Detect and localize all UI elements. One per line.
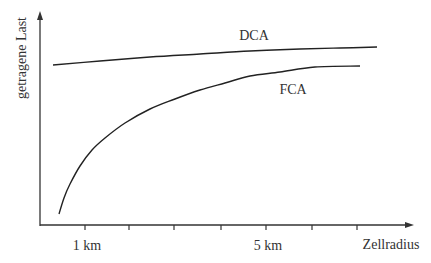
- tick-label-5km: 5 km: [254, 238, 283, 253]
- dca-curve: [53, 47, 377, 65]
- x-axis-label: Zellradius: [363, 237, 420, 252]
- x-axis-arrow-icon: [405, 222, 414, 228]
- x-ticks: [85, 225, 357, 230]
- load-vs-cell-radius-diagram: getragene Last Zellradius 1 km 5 km DCA …: [0, 0, 431, 263]
- tick-label-1km: 1 km: [73, 238, 102, 253]
- y-axis-arrow-icon: [37, 11, 43, 20]
- dca-label: DCA: [239, 28, 269, 43]
- fca-label: FCA: [279, 82, 307, 97]
- fca-curve: [59, 66, 360, 214]
- y-axis-label: getragene Last: [14, 17, 29, 99]
